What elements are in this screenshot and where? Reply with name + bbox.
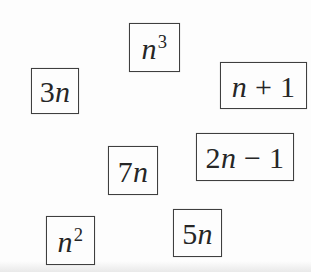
literal: − <box>236 141 269 174</box>
variable: n <box>221 141 236 174</box>
literal: 3 <box>40 75 55 108</box>
variable: n <box>142 32 157 65</box>
variable: n <box>133 155 148 188</box>
expression-text: 5n <box>182 217 213 249</box>
expression-text: 3n <box>40 75 71 107</box>
expression-tile-n-cubed[interactable]: n3 <box>129 23 180 72</box>
variable: n <box>198 217 213 250</box>
expression-text: 2n − 1 <box>206 141 285 173</box>
literal: 7 <box>118 155 133 188</box>
exponent: 2 <box>74 224 84 245</box>
expression-tile-2n-minus-1[interactable]: 2n − 1 <box>196 133 294 181</box>
expression-tile-7n[interactable]: 7n <box>108 146 158 195</box>
literal: 1 <box>280 70 295 103</box>
variable: n <box>58 225 73 258</box>
literal: 1 <box>269 141 284 174</box>
literal: 5 <box>182 217 197 250</box>
expression-tile-n-squared[interactable]: n2 <box>46 216 95 265</box>
variable: n <box>55 75 70 108</box>
expression-tile-3n[interactable]: 3n <box>31 68 79 114</box>
expression-text: n + 1 <box>232 70 295 102</box>
expression-tile-n-plus-1[interactable]: n + 1 <box>220 62 307 109</box>
exponent: 3 <box>158 31 168 52</box>
expression-tile-5n[interactable]: 5n <box>173 209 222 257</box>
expression-text: 7n <box>118 155 149 187</box>
literal: 2 <box>206 141 221 174</box>
expression-text: n2 <box>58 225 84 257</box>
expression-text: n3 <box>142 32 168 64</box>
canvas: n33nn + 17n2n − 1n25n <box>0 0 311 272</box>
variable: n <box>232 70 247 103</box>
literal: + <box>247 70 280 103</box>
